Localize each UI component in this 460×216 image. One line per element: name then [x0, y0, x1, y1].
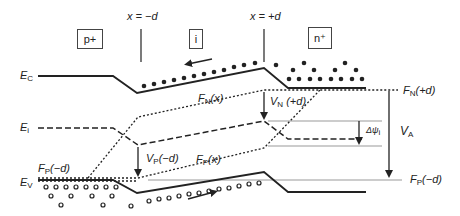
conduction-band-ec: [38, 68, 366, 93]
band-diagram: [0, 0, 460, 216]
holes-i-region: [147, 181, 261, 203]
holes-p-region: [44, 185, 133, 208]
electrons-n-region: [274, 61, 365, 82]
fp-minus-d-left-label: FP(−d): [38, 163, 70, 176]
valence-band-ev: [38, 172, 366, 193]
fp-x-label: FP(x): [196, 154, 221, 167]
boundary-label-plus-d: x = +d: [250, 11, 281, 22]
electrons-i-region: [142, 61, 258, 89]
electron-flow-arrow: [188, 59, 212, 64]
va-label: VA: [400, 125, 413, 139]
ev-label: EV: [20, 177, 33, 190]
ei-label: Ei: [20, 122, 29, 135]
vp-label: VP(−d): [146, 153, 179, 166]
region-p-box: p+: [77, 29, 103, 49]
quasi-fermi-fn: [88, 90, 398, 178]
region-n-box: n⁺: [308, 27, 332, 49]
boundary-label-minus-d: x = −d: [127, 11, 158, 22]
intrinsic-level-ei: [38, 121, 362, 145]
fp-minus-d-right-label: FP(−d): [410, 174, 442, 187]
ec-label: EC: [20, 70, 33, 83]
fn-plus-d-label: FN(+d): [403, 85, 435, 98]
delta-psi-label: Δψi: [366, 126, 380, 137]
region-i-box: i: [189, 29, 203, 49]
fn-x-label: FN(x): [198, 93, 223, 106]
vn-label: VN (+d): [270, 96, 306, 109]
